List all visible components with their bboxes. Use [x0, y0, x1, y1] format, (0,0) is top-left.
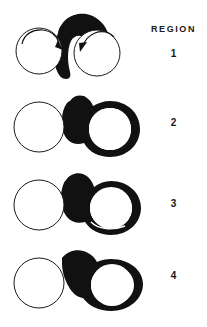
region-label-3: 3	[140, 198, 207, 209]
panel-region-2	[14, 96, 140, 157]
region-label-2: 2	[140, 117, 207, 128]
region-3-right-circle	[90, 187, 132, 229]
region-label-1: 1	[140, 48, 207, 59]
legend-column: REGION 1 2 3 4	[140, 0, 207, 327]
region-3-left-circle	[14, 180, 64, 230]
region-2-right-circle	[89, 108, 131, 150]
figure-root: REGION 1 2 3 4	[0, 0, 207, 327]
region-label-4: 4	[140, 270, 207, 281]
panel-region-1	[16, 14, 120, 79]
region-1-right-circle	[74, 30, 120, 76]
region-4-right-circle	[91, 264, 133, 306]
region-4-left-circle	[14, 258, 64, 308]
region-2-left-circle	[14, 102, 64, 152]
panel-region-3	[14, 173, 141, 235]
panel-region-4	[14, 250, 143, 311]
legend-heading: REGION	[140, 24, 207, 34]
